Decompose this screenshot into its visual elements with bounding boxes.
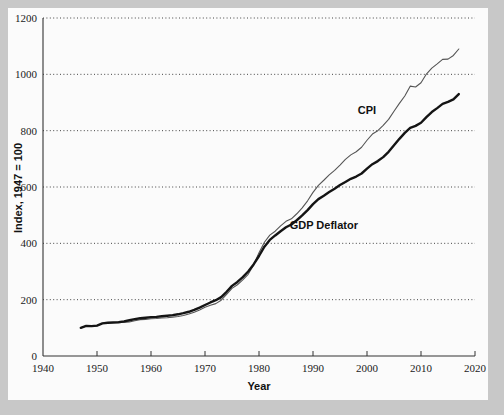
x-tick-label: 2000 (356, 362, 379, 374)
annotation-cpi: CPI (358, 104, 376, 116)
y-tick-label: 1200 (15, 12, 38, 24)
x-tick-label: 2020 (464, 362, 487, 374)
x-tick-label: 1950 (86, 362, 109, 374)
y-axis-title: Index, 1947 = 100 (12, 143, 24, 233)
y-tick-label: 1000 (15, 68, 38, 80)
annotation-gdp-deflator: GDP Deflator (290, 219, 359, 231)
chart-figure: 194019501960197019801990200020102020 020… (8, 8, 488, 400)
y-tick-label: 800 (21, 125, 38, 137)
y-tick-label: 400 (21, 237, 38, 249)
x-tick-label: 2010 (410, 362, 433, 374)
x-tick-label: 1980 (248, 362, 271, 374)
x-tick-label: 1970 (194, 362, 217, 374)
x-tick-label: 1960 (140, 362, 163, 374)
y-tick-label: 0 (32, 350, 38, 362)
x-tick-label: 1990 (302, 362, 325, 374)
price-index-line-chart: 194019501960197019801990200020102020 020… (8, 8, 488, 400)
y-tick-label: 200 (21, 294, 38, 306)
plot-background (8, 8, 488, 400)
x-tick-label: 1940 (32, 362, 55, 374)
x-axis-title: Year (247, 380, 271, 392)
